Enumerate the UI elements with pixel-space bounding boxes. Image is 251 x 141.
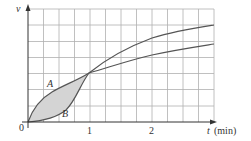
x-axis-arrow-icon [210,120,217,125]
origin-label: 0 [19,122,24,133]
x-tick-2: 2 [149,125,154,136]
y-axis-label: v [16,3,21,14]
y-axis-arrow-icon [26,4,31,11]
x-tick-1: 1 [87,125,92,136]
curve-b-label: B [62,108,68,119]
curve-a-label: A [46,78,54,89]
velocity-time-chart: v 0 1 2 t (min) A B [0,0,251,141]
x-axis-unit-label: (min) [214,125,236,137]
x-axis-var-label: t [207,125,210,136]
